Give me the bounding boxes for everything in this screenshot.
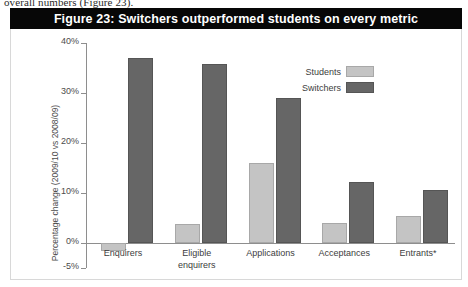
x-axis-label-4: Entrants* [381,248,455,260]
y-tick-mark [81,193,86,194]
y-tick-mark [81,43,86,44]
figure-title: Figure 23: Switchers outperformed studen… [54,12,418,26]
chart-legend: StudentsSwitchers [302,66,374,98]
y-tick-mark [81,243,86,244]
x-axis-label-0: Enquirers [86,248,160,260]
bar-switchers-2[interactable] [276,98,301,243]
y-tick-label: 10% [61,186,79,196]
surrounding-body-text: overall numbers (Figure 23). [4,0,133,8]
legend-label: Students [305,67,341,77]
x-axis-label-2: Applications [234,248,308,260]
bar-group [249,43,301,268]
bar-students-4[interactable] [396,216,421,244]
bar-students-3[interactable] [322,223,347,243]
bar-switchers-0[interactable] [128,58,153,243]
y-tick-label: 30% [61,86,79,96]
bar-group [101,43,153,268]
plot-area: -5%0%10%20%30%40% [86,43,455,268]
bar-switchers-1[interactable] [202,64,227,243]
y-axis-line [86,43,87,268]
bar-group [175,43,227,268]
legend-swatch-icon [346,82,374,93]
bar-switchers-3[interactable] [349,182,374,243]
bar-switchers-4[interactable] [423,190,448,243]
x-axis-label-1: Eligibleenquirers [160,248,234,271]
bar-group [396,43,448,268]
legend-label: Switchers [302,83,341,93]
y-tick-mark [81,93,86,94]
legend-swatch-icon [346,66,374,77]
figure-title-bar: Figure 23: Switchers outperformed studen… [10,8,462,29]
y-tick-label: 20% [61,136,79,146]
bar-students-2[interactable] [249,163,274,243]
y-tick-label: -5% [63,261,79,271]
y-tick-mark [81,143,86,144]
x-axis-label-3: Acceptances [307,248,381,260]
bar-students-1[interactable] [175,224,200,243]
legend-item-switchers[interactable]: Switchers [302,82,374,93]
y-tick-label: 0% [66,236,79,246]
legend-item-students[interactable]: Students [302,66,374,77]
x-axis-labels: EnquirersEligibleenquirersApplicationsAc… [86,248,455,282]
y-tick-label: 40% [61,36,79,46]
y-axis-title: Percentage change (2009/10 vs 2008/09) [48,83,62,283]
